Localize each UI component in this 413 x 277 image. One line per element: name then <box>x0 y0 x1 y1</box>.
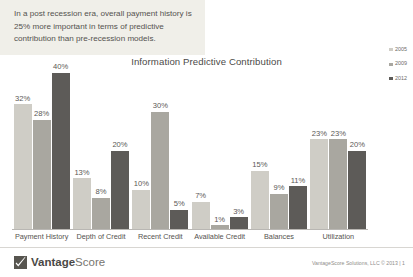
bar <box>329 139 347 229</box>
vantagescore-logo: VantageScore <box>14 256 105 269</box>
legend-swatch <box>389 63 392 66</box>
x-axis-labels: Payment HistoryDepth of CreditRecent Cre… <box>12 232 368 241</box>
footer: VantageScore VantageScore Solutions, LLC… <box>0 248 413 277</box>
bar <box>251 171 269 230</box>
bar-column: 23% <box>329 62 347 229</box>
bar <box>14 104 32 229</box>
bar <box>348 151 366 229</box>
bar-column: 23% <box>310 62 328 229</box>
x-axis-label: Recent Credit <box>131 232 190 241</box>
bar-value-label: 20% <box>350 141 365 149</box>
legend-swatch <box>389 48 392 51</box>
caption-text: In a post recession era, overall payment… <box>14 9 192 43</box>
bar-group: 15%9%11% <box>249 62 308 229</box>
bar <box>52 73 70 229</box>
legend-label: 2012 <box>395 76 407 81</box>
bar <box>310 139 328 229</box>
bar-value-label: 10% <box>134 180 149 188</box>
x-axis-label: Available Credit <box>190 232 249 241</box>
bar-column: 20% <box>111 62 129 229</box>
legend-item: 2005 <box>389 47 407 52</box>
bar-group: 23%23%20% <box>309 62 368 229</box>
bar <box>170 210 188 230</box>
bar-value-label: 15% <box>252 161 267 169</box>
bar-value-label: 32% <box>15 95 30 103</box>
bar-value-label: 7% <box>195 192 206 200</box>
bar <box>132 190 150 229</box>
x-axis-label: Utilization <box>309 232 368 241</box>
bar-value-label: 3% <box>233 208 244 216</box>
bar-groups: 32%28%40%13%8%20%10%30%5%7%1%3%15%9%11%2… <box>12 62 368 229</box>
bar-column: 3% <box>230 62 248 229</box>
chart-legend: 200520092012 <box>389 47 407 81</box>
bar-column: 32% <box>14 62 32 229</box>
bar-column: 15% <box>251 62 269 229</box>
legend-item: 2009 <box>389 61 407 66</box>
x-axis-label: Balances <box>249 232 308 241</box>
legend-swatch <box>389 77 392 80</box>
bar-column: 13% <box>73 62 91 229</box>
plot-area: 32%28%40%13%8%20%10%30%5%7%1%3%15%9%11%2… <box>12 62 368 229</box>
bar <box>151 112 169 229</box>
bar-column: 7% <box>192 62 210 229</box>
x-axis-label: Depth of Credit <box>71 232 130 241</box>
bar <box>92 198 110 229</box>
bar-column: 8% <box>92 62 110 229</box>
bar <box>289 186 307 229</box>
bar-value-label: 30% <box>153 102 168 110</box>
bar <box>111 151 129 229</box>
bar-value-label: 11% <box>291 177 306 185</box>
bar-column: 11% <box>289 62 307 229</box>
bar-value-label: 8% <box>95 188 106 196</box>
legend-item: 2012 <box>389 76 407 81</box>
bar-column: 1% <box>211 62 229 229</box>
logo-name-light: Score <box>75 256 105 268</box>
bar-value-label: 1% <box>214 216 225 224</box>
bar <box>230 217 248 229</box>
logo-name-bold: Vantage <box>31 256 75 268</box>
legend-label: 2005 <box>395 47 407 52</box>
bar-group: 7%1%3% <box>190 62 249 229</box>
bar-value-label: 40% <box>53 63 68 71</box>
bar <box>33 120 51 229</box>
bar-column: 30% <box>151 62 169 229</box>
x-axis-line <box>12 229 368 230</box>
vantagescore-logo-icon <box>14 256 27 269</box>
bar-group: 10%30%5% <box>131 62 190 229</box>
bar-group: 13%8%20% <box>71 62 130 229</box>
bar <box>270 194 288 229</box>
bar-column: 9% <box>270 62 288 229</box>
bar <box>192 202 210 229</box>
bar-value-label: 23% <box>312 130 327 138</box>
bar-value-label: 5% <box>174 200 185 208</box>
bar-group: 32%28%40% <box>12 62 71 229</box>
caption-box: In a post recession era, overall payment… <box>0 0 205 55</box>
bar-value-label: 20% <box>112 141 127 149</box>
bar-column: 40% <box>52 62 70 229</box>
bar-value-label: 23% <box>331 130 346 138</box>
bar-column: 20% <box>348 62 366 229</box>
x-axis-label: Payment History <box>12 232 71 241</box>
vantagescore-logo-text: VantageScore <box>31 257 105 269</box>
copyright-text: VantageScore Solutions, LLC © 2013 | 1 <box>312 260 405 266</box>
bar-column: 28% <box>33 62 51 229</box>
bar-column: 5% <box>170 62 188 229</box>
bar-value-label: 13% <box>74 169 89 177</box>
bar-value-label: 28% <box>34 110 49 118</box>
bar-column: 10% <box>132 62 150 229</box>
legend-label: 2009 <box>395 61 407 66</box>
bar <box>73 178 91 229</box>
bar-value-label: 9% <box>273 184 284 192</box>
